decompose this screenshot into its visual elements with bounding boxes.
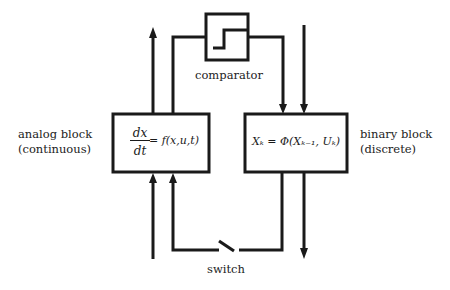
formula-numerator: dx bbox=[130, 127, 150, 141]
arrowhead-down-icon bbox=[300, 248, 308, 259]
analog-formula-rhs: = f(x,u,t) bbox=[149, 134, 199, 147]
analog-block-sublabel: (continuous) bbox=[18, 142, 91, 157]
arrowhead-up-icon bbox=[149, 27, 157, 38]
formula-denominator: dt bbox=[130, 145, 150, 158]
feedback-line-right bbox=[239, 172, 282, 250]
binary-block-sublabel: (discrete) bbox=[360, 142, 416, 157]
feedback-line-left bbox=[173, 180, 219, 250]
arrowhead-up-icon bbox=[149, 173, 157, 183]
binary-formula: Xₖ = Φ(Xₖ₋₁, Uₖ) bbox=[252, 135, 340, 148]
switch-lever bbox=[219, 241, 234, 251]
arrowhead-up-icon bbox=[169, 173, 177, 183]
comparator-block bbox=[206, 14, 248, 60]
step-function-icon bbox=[213, 30, 247, 48]
binary-block-label: binary block bbox=[360, 127, 432, 142]
analog-block-label: analog block bbox=[18, 127, 92, 142]
comparator-label: comparator bbox=[195, 68, 263, 83]
switch-label: switch bbox=[207, 262, 245, 277]
